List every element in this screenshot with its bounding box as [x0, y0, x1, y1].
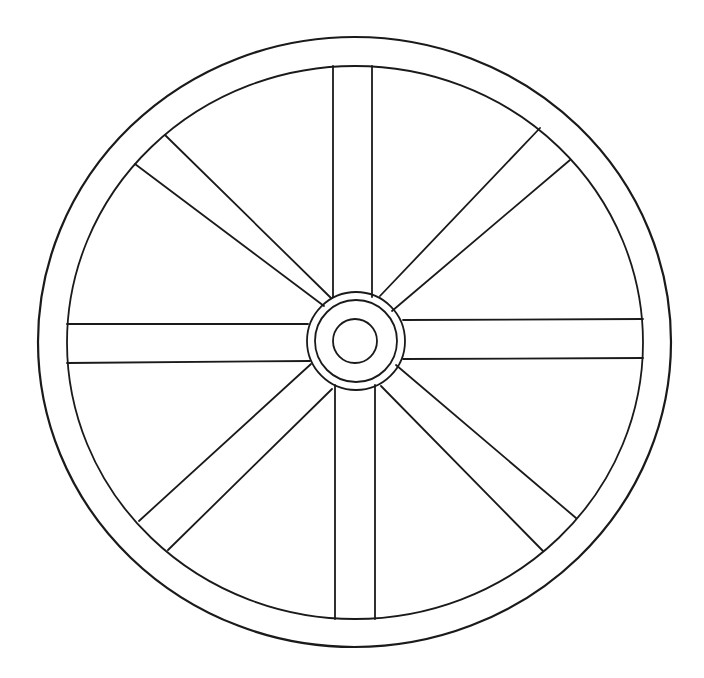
spoke-edge	[67, 361, 310, 363]
hub-outer-ring	[307, 292, 405, 390]
spoke-left	[67, 324, 310, 363]
spoke-edge	[135, 164, 324, 306]
spoke-bottom	[335, 385, 375, 619]
spoke-lower-left	[139, 364, 332, 550]
hub-middle-ring	[315, 300, 397, 382]
spoke-edge	[392, 160, 570, 311]
spoke-edge	[403, 319, 643, 320]
outer-rim	[38, 37, 671, 647]
spoke-edge	[165, 135, 331, 298]
spoke-edge	[403, 358, 643, 359]
inner-rim	[67, 66, 643, 619]
spoke-edge	[139, 364, 311, 521]
spokes-group	[67, 66, 643, 619]
spoke-upper-right	[380, 128, 570, 311]
spoke-right	[403, 319, 643, 359]
spoke-edge	[168, 389, 332, 550]
spoke-lower-right	[381, 365, 576, 551]
spoke-upper-left	[135, 135, 331, 306]
hub-axle-hole	[333, 319, 377, 363]
spoke-edge	[396, 365, 576, 518]
wagon-wheel-diagram	[0, 0, 704, 678]
wheel-svg	[0, 0, 704, 678]
spoke-top	[333, 66, 372, 297]
spoke-edge	[380, 128, 540, 296]
